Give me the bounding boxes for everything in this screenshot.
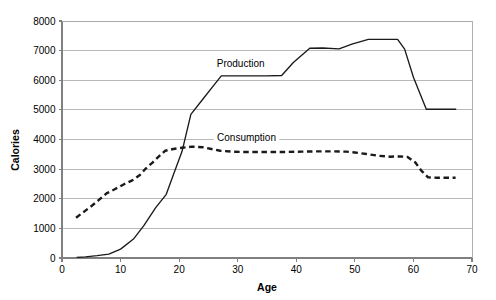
- gridlines-group: [62, 21, 472, 228]
- y-tick-label: 4000: [33, 134, 56, 145]
- y-tick-label: 2000: [33, 193, 56, 204]
- series-line-consumption: [76, 147, 456, 218]
- y-axis-title: Calories: [9, 129, 21, 171]
- y-tick-label: 1000: [33, 223, 56, 234]
- x-tick-label: 30: [232, 264, 244, 275]
- data-series-group: [76, 39, 456, 257]
- x-tick-label: 10: [115, 264, 127, 275]
- x-tick-label: 20: [174, 264, 186, 275]
- x-tick-label: 0: [59, 264, 65, 275]
- series-line-production: [77, 39, 457, 257]
- x-tick-label: 40: [291, 264, 303, 275]
- y-tick-label: 0: [50, 253, 56, 264]
- x-tick-label: 70: [466, 264, 478, 275]
- x-axis-title: Age: [257, 281, 277, 293]
- x-axis-tick-labels: 010203040506070: [59, 264, 478, 275]
- series-annotations-group: ProductionConsumption: [211, 58, 280, 144]
- y-tick-label: 6000: [33, 75, 56, 86]
- series-label-production: Production: [217, 58, 265, 69]
- y-tick-label: 3000: [33, 164, 56, 175]
- line-chart: 010002000300040005000600070008000 010203…: [0, 0, 496, 300]
- y-tick-label: 8000: [33, 16, 56, 27]
- y-axis-tick-labels: 010002000300040005000600070008000: [33, 16, 56, 264]
- series-label-consumption: Consumption: [217, 132, 276, 143]
- y-tick-label: 7000: [33, 45, 56, 56]
- chart-container: 010002000300040005000600070008000 010203…: [0, 0, 496, 300]
- x-tick-label: 60: [408, 264, 420, 275]
- x-tick-label: 50: [349, 264, 361, 275]
- y-tick-label: 5000: [33, 104, 56, 115]
